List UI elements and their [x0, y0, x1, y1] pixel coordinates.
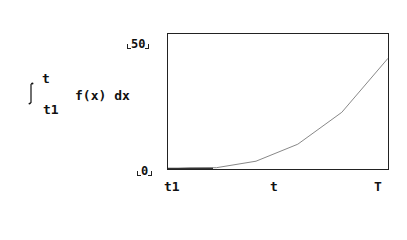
integral-sign-icon: [28, 76, 34, 112]
x-tick-mid: t: [270, 180, 278, 193]
integrand-label: f(x) dx: [75, 89, 130, 102]
integral-lower-limit: t1: [43, 103, 59, 116]
integral-upper-limit: t: [42, 72, 50, 85]
x-tick-start: t1: [164, 180, 180, 193]
curve-line: [168, 58, 388, 169]
y-tick-max: 50: [127, 38, 149, 50]
y-tick-min: 0: [137, 165, 152, 177]
x-tick-end: T: [374, 180, 382, 193]
integral-curve: [168, 34, 388, 169]
tick-bracket-icon: [145, 44, 149, 49]
plot-area: [167, 33, 389, 170]
tick-bracket-icon: [148, 171, 152, 176]
